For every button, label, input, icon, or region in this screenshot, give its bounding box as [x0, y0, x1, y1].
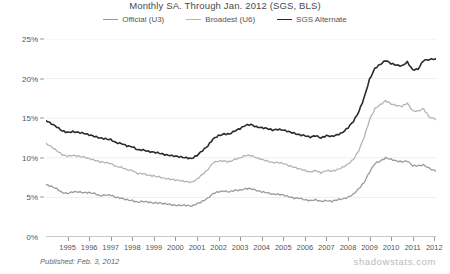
site-watermark: shadowstats.com — [354, 256, 436, 267]
x-axis-tick-label: 2002 — [210, 243, 227, 252]
x-axis: 1995199619971998199920002001200220032004… — [0, 243, 450, 257]
y-axis-tick — [40, 39, 44, 40]
series-line — [46, 157, 436, 206]
x-axis-tick-label: 1998 — [124, 243, 141, 252]
x-axis-tick — [219, 237, 220, 241]
x-axis-tick — [154, 237, 155, 241]
x-axis-tick-label: 2001 — [189, 243, 206, 252]
x-axis-tick — [197, 237, 198, 241]
y-axis-tick-label: 25% — [22, 35, 38, 44]
x-axis-tick — [326, 237, 327, 241]
x-axis-tick — [305, 237, 306, 241]
legend-label: Official (U3) — [122, 15, 164, 24]
legend-line-icon — [277, 19, 292, 20]
legend-item[interactable]: Official (U3) — [103, 15, 164, 24]
plot-area — [46, 39, 436, 237]
y-axis-tick — [40, 78, 44, 79]
legend-line-icon — [103, 19, 118, 20]
x-axis-tick — [89, 237, 90, 241]
x-axis-tick — [240, 237, 241, 241]
x-axis-tick-label: 1995 — [59, 243, 76, 252]
legend-line-icon — [186, 19, 201, 20]
x-axis-tick-label: 1999 — [146, 243, 163, 252]
x-axis-tick-label: 2007 — [318, 243, 335, 252]
x-axis-tick-label: 2009 — [361, 243, 378, 252]
legend-label: SGS Alternate — [296, 15, 347, 24]
x-axis-tick-label: 2012 — [426, 243, 443, 252]
x-axis-tick-label: 2010 — [383, 243, 400, 252]
y-axis-tick — [40, 118, 44, 119]
y-axis-tick-label: 20% — [22, 74, 38, 83]
x-axis-tick-label: 2004 — [253, 243, 270, 252]
y-axis-tick — [40, 157, 44, 158]
chart-title: Monthly SA. Through Jan. 2012 (SGS, BLS) — [0, 0, 450, 11]
x-axis-tick — [132, 237, 133, 241]
x-axis-tick-label: 1997 — [102, 243, 119, 252]
x-axis-tick-label: 2005 — [275, 243, 292, 252]
y-axis-tick-label: 15% — [22, 114, 38, 123]
x-axis-tick — [391, 237, 392, 241]
legend-label: Broadest (U6) — [205, 15, 255, 24]
x-axis-tick — [111, 237, 112, 241]
chart-svg — [46, 39, 436, 237]
x-axis-tick-label: 2011 — [405, 243, 421, 252]
y-axis-tick-label: 0% — [26, 233, 38, 242]
x-axis-tick-label: 2008 — [340, 243, 357, 252]
x-axis-tick-label: 1996 — [81, 243, 98, 252]
x-axis-tick — [68, 237, 69, 241]
chart-container: Monthly SA. Through Jan. 2012 (SGS, BLS)… — [0, 0, 450, 274]
x-axis-tick — [348, 237, 349, 241]
x-axis-tick-label: 2006 — [297, 243, 314, 252]
y-axis-tick-label: 5% — [26, 193, 38, 202]
y-axis-tick — [40, 197, 44, 198]
published-date: Published: Feb. 3, 2012 — [40, 257, 119, 266]
x-axis-tick — [413, 237, 414, 241]
series-line — [46, 101, 436, 183]
y-axis: 0%5%10%15%20%25% — [0, 0, 46, 274]
x-axis-tick — [262, 237, 263, 241]
x-axis-tick-label: 2003 — [232, 243, 249, 252]
series-line — [46, 59, 436, 159]
x-axis-tick — [370, 237, 371, 241]
x-axis-tick-label: 2000 — [167, 243, 184, 252]
legend-item[interactable]: Broadest (U6) — [186, 15, 255, 24]
x-axis-tick — [175, 237, 176, 241]
y-axis-tick-label: 10% — [22, 153, 38, 162]
x-axis-tick — [434, 237, 435, 241]
x-axis-tick — [283, 237, 284, 241]
chart-legend: Official (U3)Broadest (U6)SGS Alternate — [0, 15, 450, 24]
legend-item[interactable]: SGS Alternate — [277, 15, 347, 24]
